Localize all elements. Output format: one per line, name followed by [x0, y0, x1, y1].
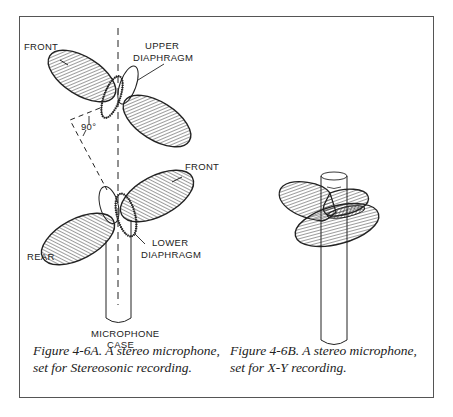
- caption-a-line2: set for Stereosonic recording.: [33, 359, 233, 376]
- label-rear: REAR: [27, 251, 55, 262]
- label-angle-90: 90°: [81, 121, 96, 132]
- figure-b-diagram: [279, 172, 383, 345]
- label-upper-diaphragm-2: DIAPHRAGM: [133, 52, 193, 63]
- caption-b-line2: set for X-Y recording.: [230, 359, 430, 376]
- caption-figure-a: Figure 4-6A. A stereo microphone, set fo…: [33, 342, 233, 376]
- upper-lobe-rear: [115, 85, 200, 157]
- caption-b-line1: Figure 4-6B. A stereo microphone,: [230, 342, 430, 359]
- figure-a-diagram: FRONT UPPER DIAPHRAGM 90° FRONT REAR LOW…: [24, 28, 219, 350]
- label-microphone: MICROPHONE: [91, 328, 159, 339]
- lower-diaphragm-leader: [135, 234, 145, 244]
- caption-figure-b: Figure 4-6B. A stereo microphone, set fo…: [230, 342, 430, 376]
- label-upper-diaphragm-1: UPPER: [145, 40, 179, 51]
- label-front-lower: FRONT: [185, 161, 219, 172]
- label-front-upper: FRONT: [24, 41, 58, 52]
- upper-diaphragm-leader: [138, 64, 164, 80]
- caption-a-line1: Figure 4-6A. A stereo microphone,: [33, 342, 233, 359]
- lower-lobe-rear: [33, 203, 122, 276]
- label-lower-diaphragm-2: DIAPHRAGM: [141, 249, 201, 260]
- label-lower-diaphragm-1: LOWER: [152, 237, 188, 248]
